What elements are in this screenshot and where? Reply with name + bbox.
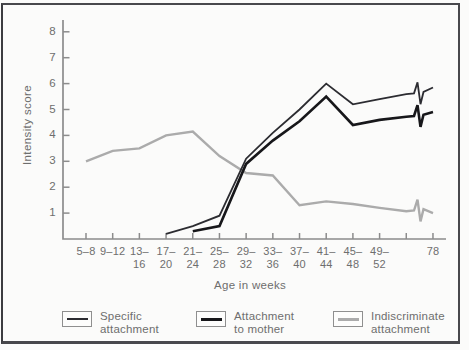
y-tick-label: 1 bbox=[34, 206, 56, 218]
legend-item-specific-attachment: Specific attachment bbox=[62, 310, 159, 335]
series-line-specific-attachment bbox=[166, 82, 433, 233]
legend-line-swatch-indiscriminate bbox=[338, 318, 359, 321]
chart-canvas bbox=[0, 0, 469, 350]
y-axis-title: Intensity score bbox=[21, 85, 33, 165]
legend-item-attachment-to-mother: Attachment to mother bbox=[196, 310, 294, 335]
legend-line-swatch-mother bbox=[201, 318, 222, 321]
y-tick-label: 3 bbox=[34, 154, 56, 166]
legend-swatch-box bbox=[196, 311, 226, 327]
y-tick-label: 4 bbox=[34, 128, 56, 140]
y-tick-label: 8 bbox=[34, 25, 56, 37]
legend-swatch-box bbox=[62, 311, 92, 327]
x-tick-label: 49– 52 bbox=[363, 245, 397, 271]
legend-label: Specific attachment bbox=[100, 310, 159, 335]
y-tick-label: 5 bbox=[34, 103, 56, 115]
axes-lines bbox=[63, 20, 446, 239]
y-tick-label: 6 bbox=[34, 77, 56, 89]
legend-item-indiscriminate-attachment: Indiscriminate attachment bbox=[333, 310, 445, 335]
y-tick-label: 7 bbox=[34, 51, 56, 63]
legend-swatch-box bbox=[333, 311, 363, 327]
legend-label: Indiscriminate attachment bbox=[371, 310, 445, 335]
legend-label: Attachment to mother bbox=[234, 310, 294, 335]
x-axis-title: Age in weeks bbox=[190, 279, 310, 291]
x-tick-label: 78 bbox=[416, 245, 450, 258]
y-tick-label: 2 bbox=[34, 180, 56, 192]
legend-line-swatch-specific bbox=[67, 318, 88, 320]
